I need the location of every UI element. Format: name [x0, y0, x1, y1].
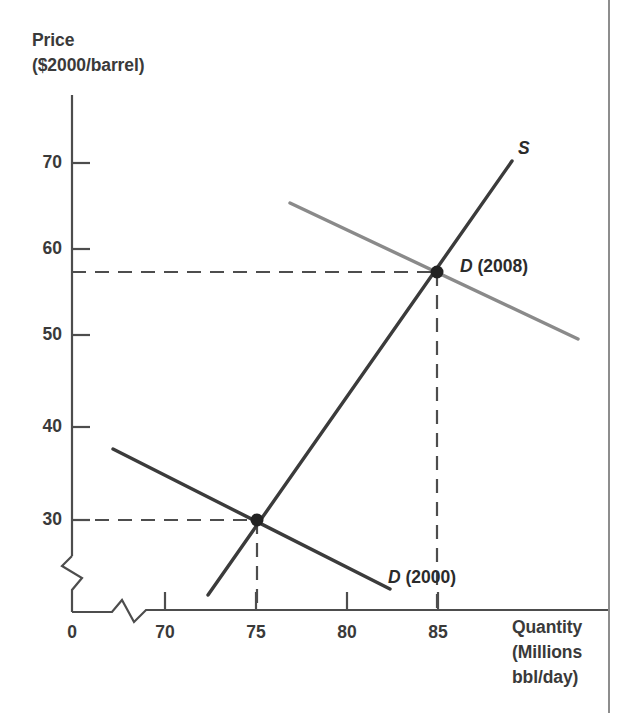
curve-label-supply: S — [518, 138, 530, 159]
curve-label-demand-2000-symbol: D — [388, 567, 401, 587]
x-axis-title-line3: bbl/day) — [512, 665, 582, 690]
x-axis-title: Quantity (Millions bbl/day) — [512, 615, 582, 690]
curve-label-demand-2008: D (2008) — [460, 256, 528, 277]
x-axis-title-line1: Quantity — [512, 615, 582, 640]
equilibrium-point-2008 — [431, 266, 444, 279]
x-tick-label-0: 0 — [52, 622, 92, 643]
x-axis-title-line2: (Millions — [512, 640, 582, 665]
curve-label-demand-2008-symbol: D — [460, 256, 473, 276]
y-axis-title-line2: ($2000/barrel) — [32, 53, 144, 78]
supply-demand-plot — [0, 0, 621, 713]
x-tick-label-85: 85 — [418, 622, 458, 643]
x-tick-label-70: 70 — [145, 622, 185, 643]
equilibrium-point-2000 — [251, 514, 264, 527]
curve-label-demand-2008-year: (2008) — [473, 256, 528, 276]
curve-label-supply-text: S — [518, 138, 530, 158]
x-tick-label-80: 80 — [327, 622, 367, 643]
y-tick-label-30: 30 — [22, 509, 62, 530]
y-tick-label-70: 70 — [22, 152, 62, 173]
y-tick-label-40: 40 — [22, 416, 62, 437]
y-axis-title-line1: Price — [32, 28, 144, 53]
x-tick-marks — [165, 592, 438, 610]
y-tick-label-60: 60 — [22, 238, 62, 259]
figure-canvas: Price ($2000/barrel) Quantity (Millions … — [0, 0, 621, 713]
curve-supply — [208, 161, 512, 595]
x-tick-label-75: 75 — [236, 622, 276, 643]
curve-label-demand-2000-year: (2000) — [401, 567, 456, 587]
page-right-rule — [608, 0, 610, 713]
y-axis-break — [62, 556, 82, 612]
y-tick-marks — [72, 163, 90, 520]
y-axis-title: Price ($2000/barrel) — [32, 28, 144, 78]
curve-label-demand-2000: D (2000) — [388, 567, 456, 588]
y-tick-label-50: 50 — [22, 324, 62, 345]
